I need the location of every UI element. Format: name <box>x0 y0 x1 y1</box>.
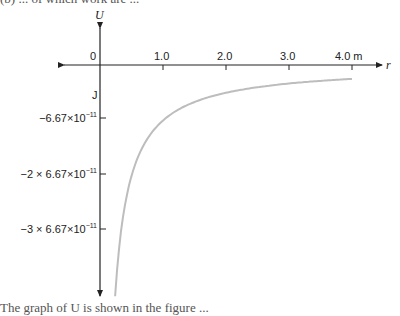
x-axis-label: r <box>386 58 391 72</box>
x-tick-label: 3.0 <box>280 50 295 62</box>
y-ticks: −6.67×10−11 −2 × 6.67×10−11 −3 × 6.67×10… <box>20 111 106 235</box>
clipped-bottom-text: The graph of U is shown in the figure ..… <box>0 300 209 316</box>
potential-energy-curve <box>115 79 352 296</box>
x-tick-label: 4.0 m <box>335 50 363 62</box>
origin-label: 0 <box>90 50 96 62</box>
y-tick-label: −3 × 6.67×10−11 <box>20 222 97 235</box>
y-tick-label: −6.67×10−11 <box>39 111 97 124</box>
y-tick-label: −2 × 6.67×10−11 <box>20 167 97 180</box>
x-tick-label: 2.0 <box>217 50 232 62</box>
y-axis-label: U <box>95 8 105 22</box>
x-tick-label: 1.0 <box>154 50 169 62</box>
x-ticks: 1.0 2.0 3.0 4.0 m <box>154 50 363 70</box>
y-unit-label: J <box>92 89 98 101</box>
